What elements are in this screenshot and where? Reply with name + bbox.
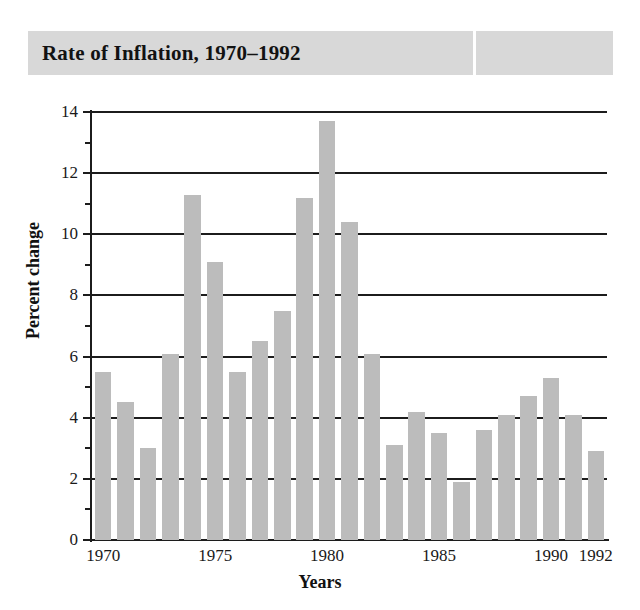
bar: [588, 451, 605, 540]
bar: [207, 262, 224, 540]
y-axis-tick-minor: [85, 325, 92, 327]
y-axis-tick-minor: [85, 142, 92, 144]
bar: [140, 448, 157, 540]
bar: [431, 433, 448, 540]
x-axis-tick-label: 1975: [198, 546, 232, 566]
x-axis-tick-label: 1985: [422, 546, 456, 566]
y-axis-tick-major: [83, 172, 92, 174]
gridline: [92, 172, 607, 174]
bar: [184, 195, 201, 540]
y-axis-tick-major: [83, 111, 92, 113]
bar: [520, 396, 537, 540]
bar: [543, 378, 560, 540]
y-axis-tick-major: [83, 478, 92, 480]
y-axis-tick-label: 4: [70, 408, 79, 428]
y-axis-tick-label: 10: [61, 224, 78, 244]
y-axis-tick-minor: [85, 447, 92, 449]
plot-area: [92, 112, 607, 540]
bar: [274, 311, 291, 540]
bar: [498, 415, 515, 540]
y-axis-tick-label: 12: [61, 163, 78, 183]
x-axis-tick-label: 1970: [86, 546, 120, 566]
bar: [162, 354, 179, 540]
y-axis-tick-minor: [85, 386, 92, 388]
bar: [229, 372, 246, 540]
x-axis-tick-label: 1992: [579, 546, 613, 566]
y-axis-tick-label: 8: [70, 285, 79, 305]
y-axis-tick-major: [83, 417, 92, 419]
y-axis-tick-major: [83, 539, 92, 541]
bar: [565, 415, 582, 540]
y-axis-tick-label: 0: [70, 530, 79, 550]
x-axis-tick-label: 1980: [310, 546, 344, 566]
y-axis-tick-major: [83, 233, 92, 235]
title-banner: Rate of Inflation, 1970–1992: [28, 31, 613, 75]
title-banner-divider: [473, 31, 476, 75]
y-axis-tick-major: [83, 356, 92, 358]
y-axis-tick-label: 14: [61, 102, 78, 122]
x-axis-title: Years: [0, 572, 640, 593]
y-axis-tick-label: 2: [70, 469, 79, 489]
bar: [117, 402, 134, 540]
y-axis-tick-labels: 02468101214: [44, 112, 78, 540]
bar: [319, 121, 336, 540]
bar: [252, 341, 269, 540]
gridline: [92, 111, 607, 113]
bar: [408, 412, 425, 540]
x-axis-tick-labels: 197019751980198519901992: [92, 546, 607, 570]
y-axis-tick-label: 6: [70, 347, 79, 367]
y-axis-title: Percent change: [23, 186, 44, 376]
bar: [386, 445, 403, 540]
bar: [341, 222, 358, 540]
y-axis-tick-minor: [85, 203, 92, 205]
page-title: Rate of Inflation, 1970–1992: [42, 41, 301, 66]
y-axis-tick-minor: [85, 264, 92, 266]
bar: [95, 372, 112, 540]
bar: [296, 198, 313, 540]
bar: [364, 354, 381, 540]
bar: [476, 430, 493, 540]
y-axis-tick-minor: [85, 508, 92, 510]
bar: [453, 482, 470, 540]
y-axis-tick-major: [83, 294, 92, 296]
x-axis-tick-label: 1990: [534, 546, 568, 566]
